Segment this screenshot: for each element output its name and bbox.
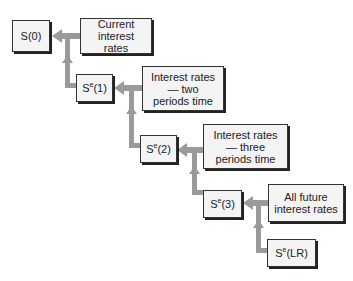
node-label: S(0) bbox=[21, 30, 42, 42]
node-selr: Se(LR) bbox=[267, 239, 316, 267]
node-se1: Se(1) bbox=[76, 74, 113, 102]
arrow-current-to-s0 bbox=[62, 33, 80, 39]
node-s0: S(0) bbox=[12, 20, 50, 52]
node-se3: Se(3) bbox=[203, 190, 242, 218]
factor-two-periods: Interest rates— two periods time bbox=[142, 66, 224, 111]
factor-three-periods: Interest rates— three periods time bbox=[203, 124, 288, 169]
factor-all-future: All future interest rates bbox=[268, 184, 344, 222]
node-se2: Se(2) bbox=[140, 135, 177, 163]
factor-label: Current interest rates bbox=[86, 18, 146, 54]
node-label: Se(1) bbox=[82, 82, 107, 94]
node-label: Se(3) bbox=[210, 198, 235, 210]
factor-current-rates: Current interest rates bbox=[80, 18, 152, 54]
node-label: Se(2) bbox=[146, 143, 171, 155]
factor-label: Interest rates— two periods time bbox=[148, 71, 218, 107]
node-label: Se(LR) bbox=[275, 247, 308, 259]
factor-label: Interest rates— three periods time bbox=[208, 129, 283, 165]
factor-label: All future interest rates bbox=[271, 191, 341, 215]
